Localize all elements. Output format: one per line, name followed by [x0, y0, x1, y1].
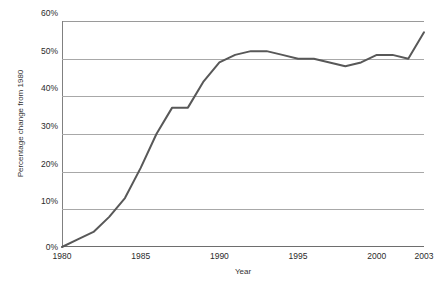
x-tick-label-1990: 1990 [210, 250, 229, 262]
x-tick-label-2003: 2003 [415, 250, 434, 262]
y-tick-label-30: 30% [20, 121, 58, 131]
y-tick-label-50: 50% [20, 46, 58, 56]
x-axis-title: Year [62, 266, 424, 278]
series-line-chart [62, 21, 424, 247]
y-tick-label-10: 10% [20, 196, 58, 206]
chart-container: Percentage change from 1980 60%50%40%30%… [0, 0, 446, 291]
x-axis-tick-labels: 198019851990199520002003 [0, 250, 446, 262]
x-tick-label-2000: 2000 [367, 250, 386, 262]
x-tick-label-1985: 1985 [131, 250, 150, 262]
x-tick-label-1980: 1980 [53, 250, 72, 262]
plot-area [62, 21, 424, 247]
y-tick-label-60: 60% [20, 8, 58, 18]
series-line-path [62, 32, 424, 247]
y-tick-label-20: 20% [20, 159, 58, 169]
y-tick-label-40: 40% [20, 83, 58, 93]
x-tick-label-1995: 1995 [289, 250, 308, 262]
y-axis-tick-labels: 60%50%40%30%20%10%0% [16, 0, 58, 291]
